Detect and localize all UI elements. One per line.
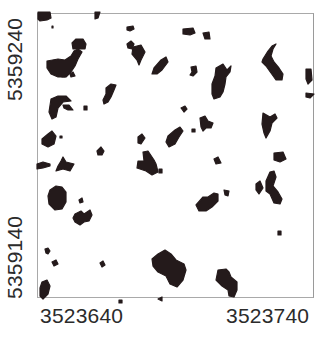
habitat-patch: [306, 93, 314, 98]
habitat-patch: [52, 260, 58, 266]
habitat-patch: [166, 127, 183, 147]
habitat-patch: [47, 49, 82, 77]
map-frame: [37, 13, 314, 298]
habitat-patch: [100, 261, 105, 267]
habitat-patch: [103, 84, 116, 104]
habitat-patch: [138, 134, 145, 144]
habitat-patch: [62, 75, 65, 77]
habitat-patch: [97, 147, 104, 155]
habitat-patch: [267, 183, 269, 185]
habitat-patch: [127, 26, 134, 31]
habitat-patch: [262, 113, 277, 138]
habitat-patch: [158, 297, 162, 301]
x-axis-label-right: 3523740: [226, 304, 309, 328]
habitat-patch: [214, 157, 221, 164]
habitat-patch: [60, 136, 62, 138]
habitat-patch: [52, 26, 53, 28]
habitat-patch: [262, 44, 283, 80]
habitat-patch: [159, 169, 162, 173]
habitat-patch: [274, 152, 286, 162]
habitat-patch: [181, 106, 187, 112]
habitat-patch: [40, 280, 50, 299]
y-axis-label-top: 5359240: [3, 18, 27, 101]
habitat-patch: [79, 198, 83, 203]
x-axis-label-left: 3523640: [40, 304, 123, 328]
habitat-patch: [37, 162, 50, 169]
habitat-patch: [152, 250, 186, 287]
habitat-patch: [38, 12, 51, 21]
habitat-patch: [48, 186, 66, 210]
habitat-patch: [41, 17, 43, 19]
habitat-patch: [224, 190, 229, 196]
habitat-patch: [56, 157, 74, 171]
habitat-patch: [127, 41, 134, 49]
habitat-patch: [137, 151, 158, 175]
habitat-patch: [95, 12, 100, 19]
habitat-patch: [190, 66, 197, 76]
habitat-patch: [216, 269, 237, 297]
patch-layer: [38, 14, 315, 299]
habitat-patch: [196, 193, 218, 211]
habitat-patch: [132, 45, 145, 65]
habitat-patch: [73, 210, 92, 225]
habitat-patch: [84, 106, 87, 110]
habitat-patch: [278, 231, 281, 235]
habitat-patch: [45, 248, 50, 254]
habitat-patch: [119, 300, 122, 303]
habitat-patch: [266, 171, 282, 204]
habitat-patch: [63, 105, 73, 110]
habitat-patch: [183, 28, 195, 35]
habitat-patch: [203, 32, 210, 39]
y-axis-label-bottom: 5359140: [3, 216, 27, 299]
habitat-patch: [200, 116, 213, 131]
habitat-patch: [212, 64, 231, 99]
habitat-patch: [192, 129, 195, 132]
habitat-patch: [72, 39, 86, 49]
habitat-patch: [306, 69, 312, 84]
habitat-patch: [256, 181, 263, 194]
habitat-patch: [152, 57, 168, 74]
habitat-patch: [42, 131, 56, 147]
